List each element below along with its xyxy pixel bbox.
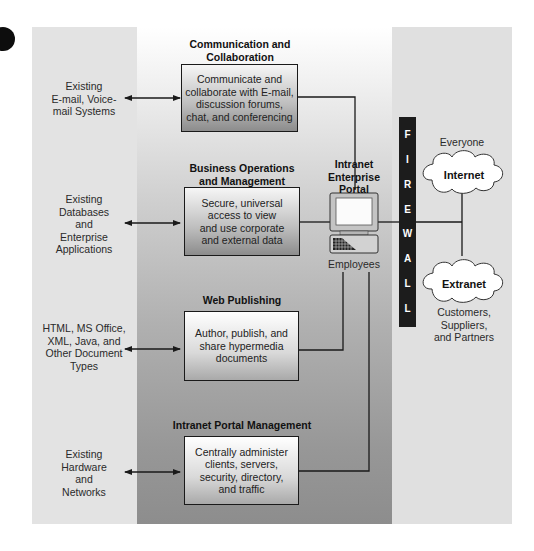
function-title-web-publishing: Web Publishing [184,294,300,307]
source-hardware-networks: Existing Hardware and Networks [34,448,134,498]
portal-title: Intranet Enterprise Portal [318,158,390,196]
employees-label: Employees [322,258,386,271]
function-box-communication: Communicate and collaborate with E-mail,… [181,64,298,132]
internet-audience-label: Everyone [430,136,494,149]
internet-label: Internet [432,169,496,181]
source-document-types: HTML, MS Office, XML, Java, and Other Do… [30,322,138,372]
firewall-bar: F I R E W A L L [399,117,416,327]
extranet-label: Extranet [432,278,496,290]
computer-icon [330,193,378,253]
function-title-communication: Communication and Collaboration [170,38,310,63]
source-databases-applications: Existing Databases and Enterprise Applic… [34,193,134,256]
function-box-web-publishing: Author, publish, and share hypermedia do… [184,311,299,381]
source-email-voicemail: Existing E-mail, Voice- mail Systems [34,80,134,118]
double-arrow-icons [125,98,180,472]
function-box-portal-management: Centrally administer clients, servers, s… [184,436,299,505]
function-title-business: Business Operations and Management [170,162,314,187]
extranet-audience-label: Customers, Suppliers, and Partners [424,306,504,344]
function-title-portal-management: Intranet Portal Management [162,419,322,432]
function-box-business: Secure, universal access to view and use… [184,187,300,256]
